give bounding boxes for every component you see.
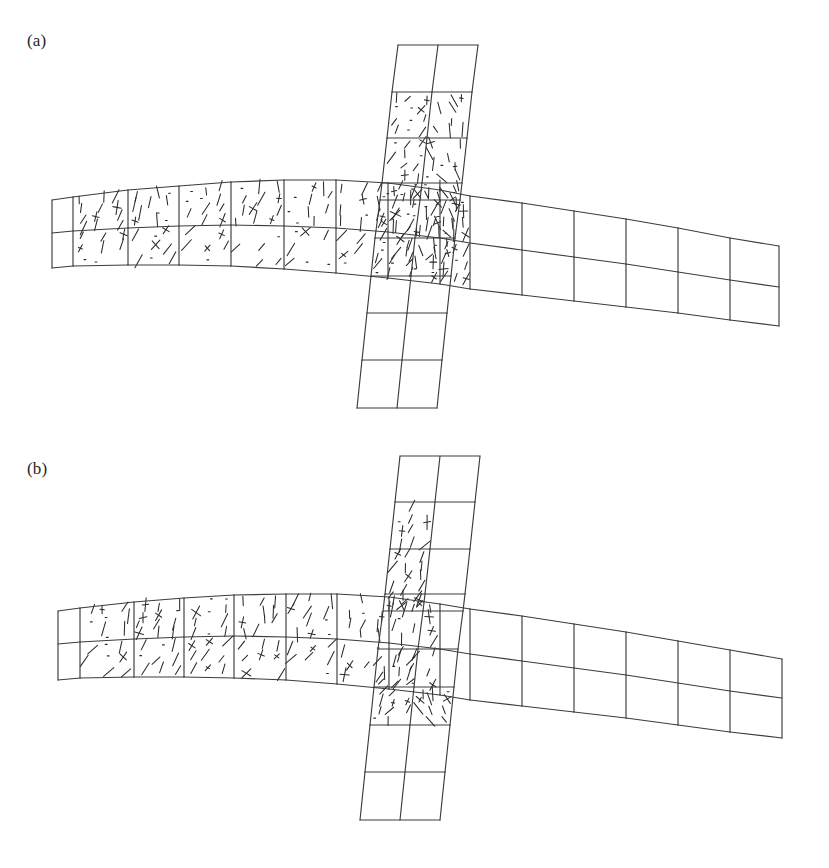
crack-mark — [141, 640, 146, 650]
crack-mark — [278, 669, 285, 681]
crack-mark — [399, 667, 400, 675]
crack-mark — [392, 619, 396, 630]
column-vertical-line — [450, 687, 454, 725]
column-vertical-line — [411, 238, 415, 276]
crack-mark — [415, 256, 417, 268]
crack-mark — [379, 679, 384, 684]
beam-horizontal-line — [58, 642, 80, 644]
crack-mark — [432, 686, 433, 701]
crack-mark — [324, 607, 329, 619]
crack-mark — [392, 195, 397, 208]
beam-horizontal-line — [574, 301, 626, 307]
crack-mark — [253, 624, 259, 637]
crack-mark — [132, 229, 138, 240]
crack-mark — [307, 613, 312, 626]
crack-mark-cross — [156, 613, 162, 617]
crack-mark — [395, 125, 398, 133]
panel-b: (b) — [0, 434, 829, 868]
crack-mark — [390, 603, 393, 617]
crack-mark — [419, 580, 425, 591]
crack-mark — [158, 603, 159, 611]
crack-mark-cross — [397, 236, 404, 242]
beam-horizontal-line — [626, 718, 678, 725]
crack-mark-cross — [206, 640, 212, 644]
column-vertical-line — [462, 138, 467, 183]
beam-horizontal-line — [678, 272, 730, 280]
crack-mark — [242, 655, 247, 660]
crack-mark — [406, 247, 407, 256]
beam-horizontal-line — [730, 732, 782, 738]
crack-mark — [277, 641, 279, 652]
crack-mark — [238, 641, 244, 649]
beam-horizontal-line — [337, 639, 389, 643]
crack-mark — [191, 663, 197, 674]
mesh-lines — [52, 45, 779, 408]
crack-mark — [219, 656, 224, 662]
beam-horizontal-line — [522, 295, 574, 301]
column-vertical-line — [440, 772, 445, 820]
column-vertical-line — [455, 200, 460, 238]
crack-mark — [405, 141, 410, 148]
column-mesh — [360, 456, 480, 820]
crack-mark — [385, 707, 393, 714]
panel-a-mesh — [0, 0, 829, 434]
crack-mark — [437, 174, 447, 183]
crack-mark — [414, 703, 423, 714]
crack-mark — [413, 624, 415, 633]
crack-mark-cross — [391, 191, 396, 192]
beam-horizontal-line — [73, 265, 128, 266]
beam-horizontal-line — [336, 228, 388, 232]
crack-mark — [427, 669, 430, 676]
beam-horizontal-line — [336, 180, 388, 183]
crack-mark — [374, 259, 382, 269]
crack-mark — [201, 649, 209, 660]
crack-mark-cross — [242, 671, 251, 676]
beam-horizontal-line — [286, 680, 337, 684]
column-vertical-line — [445, 725, 450, 772]
crack-mark — [287, 641, 292, 655]
beam-horizontal-line — [678, 641, 730, 650]
crack-mark — [340, 205, 341, 215]
crack-mark — [379, 707, 381, 714]
crack-mark-cross — [419, 698, 421, 702]
crack-mark-cross — [381, 221, 387, 225]
crack-mark — [285, 258, 294, 265]
crack-mark — [425, 191, 428, 198]
beam-horizontal-line — [73, 190, 128, 197]
beam-horizontal-line — [440, 695, 470, 700]
crack-mark — [413, 199, 415, 207]
beam-horizontal-line — [184, 636, 234, 637]
beam-horizontal-line — [574, 712, 626, 718]
beam-horizontal-line — [470, 609, 522, 616]
crack-mark — [191, 651, 196, 660]
crack-mark — [122, 669, 131, 677]
crack-mark — [202, 215, 207, 225]
crack-mark — [365, 662, 370, 668]
column-vertical-line — [418, 611, 423, 649]
crack-mark — [419, 225, 420, 236]
beam-horizontal-line — [337, 594, 389, 597]
crack-mark — [457, 181, 459, 191]
beam-horizontal-line — [234, 594, 286, 595]
crack-mark — [101, 233, 106, 241]
column-vertical-line — [390, 502, 395, 549]
beam-horizontal-line — [388, 232, 440, 238]
crack-mark — [462, 217, 463, 227]
beam-horizontal-line — [58, 678, 80, 680]
crack-mark — [88, 645, 98, 654]
crack-mark — [429, 706, 432, 714]
crack-mark-cross — [120, 654, 126, 660]
crack-mark — [275, 596, 276, 608]
crack-mark — [442, 706, 445, 714]
crack-mark — [409, 515, 413, 524]
crack-mark — [393, 219, 394, 233]
crack-mark — [413, 164, 418, 171]
crack-mark-cross — [430, 683, 436, 687]
crack-mark — [187, 209, 191, 217]
column-vertical-line — [397, 360, 402, 408]
crack-mark — [407, 705, 411, 713]
column-vertical-line — [423, 594, 425, 611]
column-vertical-line — [357, 360, 362, 408]
crack-mark — [389, 690, 395, 695]
crack-mark — [277, 205, 281, 215]
